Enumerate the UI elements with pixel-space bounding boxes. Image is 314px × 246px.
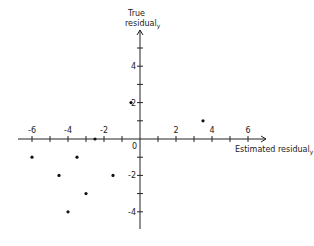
data-point	[30, 156, 33, 159]
data-point	[111, 174, 114, 177]
data-points	[30, 101, 204, 213]
data-point	[66, 210, 69, 213]
y-axis-title-line1: True	[127, 9, 145, 18]
data-point	[84, 192, 87, 195]
data-point	[129, 101, 132, 104]
scatter-chart: -6-4-2246-4-224 True residualy Estimated…	[0, 0, 314, 246]
x-tick-label: 2	[173, 126, 178, 135]
x-tick-label: -4	[64, 126, 72, 135]
origin-label: 0	[132, 142, 137, 151]
data-point	[75, 156, 78, 159]
y-axis-title-line2: residualy	[125, 19, 161, 30]
y-tick-label: -2	[128, 171, 136, 180]
axes	[18, 30, 266, 229]
data-point	[57, 174, 60, 177]
x-tick-label: 4	[209, 126, 214, 135]
data-point	[201, 119, 204, 122]
x-tick-label: -2	[100, 126, 108, 135]
x-tick-label: 6	[245, 126, 250, 135]
y-tick-label: -4	[128, 208, 136, 217]
x-axis-title: Estimated residualy	[235, 145, 314, 156]
data-point	[93, 137, 96, 140]
x-tick-label: -6	[28, 126, 36, 135]
y-tick-label: 4	[131, 62, 136, 71]
